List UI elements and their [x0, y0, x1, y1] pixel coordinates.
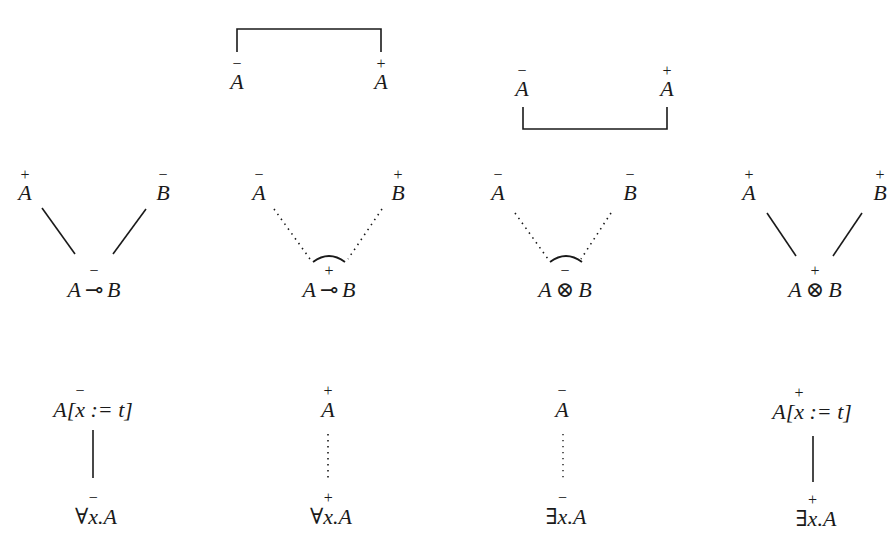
polarity-sign: −	[625, 167, 634, 183]
variable: x	[88, 504, 98, 529]
variable: x	[808, 506, 818, 531]
atom-label: A	[742, 180, 755, 205]
polarity-sign: +	[795, 385, 804, 401]
substitution: := t]	[85, 397, 133, 422]
exists-quantifier: ∃	[796, 506, 808, 531]
tensor-pos-conclusion: A+⊗B	[788, 279, 841, 301]
formula-body: .A	[98, 504, 117, 529]
polarity-sign: −	[89, 490, 98, 506]
polarity-sign: +	[662, 63, 671, 79]
polarity-sign: +	[20, 167, 29, 183]
tensor-operator: ⊗	[552, 277, 578, 302]
polarity-sign: −	[558, 490, 567, 506]
polarity-sign: +	[323, 383, 332, 399]
tensor-neg-conclusion: A−⊗B	[538, 279, 591, 301]
lollipop-pos-conclusion: A+⊸B	[303, 279, 356, 301]
polarity-sign: +	[393, 167, 402, 183]
lollipop-operator: ⊸	[316, 277, 342, 302]
forall-pos-premise: +A	[321, 399, 334, 421]
formula-head: A[	[772, 399, 794, 424]
exists-neg-premise: −A	[555, 399, 568, 421]
tensor-neg-edges	[515, 213, 611, 262]
polarity-sign: +	[744, 167, 753, 183]
formula-left: A	[68, 277, 81, 302]
atom-label: B	[391, 180, 404, 205]
formula-head: A[	[53, 397, 75, 422]
tensor-pos-premise-right: + B	[873, 182, 886, 204]
lollipop-neg-premise-right: − B	[156, 182, 169, 204]
polarity-sign: −	[557, 383, 566, 399]
substitution: := t]	[804, 399, 852, 424]
variable: x	[558, 504, 568, 529]
polarity-sign: −	[254, 167, 263, 183]
lollipop-pos-premise-right: + B	[391, 182, 404, 204]
forall-quantifier: ∀	[75, 504, 88, 529]
axiom-bottom-left-atom: − A	[515, 78, 528, 100]
lollipop-neg-premise-left: + A	[18, 182, 31, 204]
lollipop-neg-conclusion: A−⊸B	[68, 279, 121, 301]
exists-pos-premise: A[+x := t]	[772, 401, 852, 423]
lollipop-pos-edges	[274, 209, 382, 262]
atom-label: A	[18, 180, 31, 205]
formula-left: A	[788, 277, 801, 302]
axiom-bottom-bracket	[523, 107, 667, 129]
forall-neg-conclusion: ∀−x.A	[75, 506, 117, 528]
atom-label: A	[321, 397, 334, 422]
atom-label: A	[230, 69, 243, 94]
lollipop-neg-edges	[42, 208, 146, 254]
formula-left: A	[303, 277, 316, 302]
formula-body: .A	[567, 504, 586, 529]
exists-quantifier: ∃	[546, 504, 558, 529]
polarity-sign: −	[560, 263, 569, 279]
link-edges	[0, 0, 892, 548]
exists-neg-conclusion: ∃−x.A	[546, 506, 587, 528]
forall-neg-premise: A[−x := t]	[53, 399, 133, 421]
atom-label: A	[491, 180, 504, 205]
polarity-sign: −	[493, 167, 502, 183]
axiom-top-bracket	[237, 29, 381, 52]
lollipop-operator: ⊸	[81, 277, 107, 302]
polarity-sign: +	[324, 490, 333, 506]
tensor-operator: ⊗	[802, 277, 828, 302]
axiom-top-right-atom: + A	[374, 71, 387, 93]
atom-label: A	[515, 76, 528, 101]
tensor-pos-premise-left: + A	[742, 182, 755, 204]
polarity-sign: −	[232, 56, 241, 72]
polarity-sign: +	[376, 56, 385, 72]
atom-label: B	[623, 180, 636, 205]
atom-label: A	[660, 76, 673, 101]
polarity-sign: +	[875, 167, 884, 183]
formula-right: B	[828, 277, 841, 302]
polarity-sign: −	[517, 63, 526, 79]
axiom-top-left-atom: − A	[230, 71, 243, 93]
polarity-sign: −	[158, 167, 167, 183]
atom-label: A	[252, 180, 265, 205]
tensor-neg-premise-right: − B	[623, 182, 636, 204]
formula-body: .A	[333, 504, 352, 529]
formula-left: A	[538, 277, 551, 302]
polarity-sign: −	[89, 263, 98, 279]
exists-pos-conclusion: ∃+x.A	[796, 508, 837, 530]
variable: x	[794, 399, 804, 424]
atom-label: B	[156, 180, 169, 205]
axiom-bottom-right-atom: + A	[660, 78, 673, 100]
atom-label: A	[374, 69, 387, 94]
lollipop-pos-premise-left: − A	[252, 182, 265, 204]
forall-pos-conclusion: ∀+x.A	[310, 506, 352, 528]
atom-label: A	[555, 397, 568, 422]
polarity-sign: +	[324, 263, 333, 279]
polarity-sign: +	[810, 263, 819, 279]
forall-quantifier: ∀	[310, 504, 323, 529]
variable: x	[323, 504, 333, 529]
formula-body: .A	[817, 506, 836, 531]
polarity-sign: −	[76, 383, 85, 399]
atom-label: B	[873, 180, 886, 205]
polarity-sign: +	[808, 492, 817, 508]
tensor-neg-premise-left: − A	[491, 182, 504, 204]
formula-right: B	[578, 277, 591, 302]
variable: x	[75, 397, 85, 422]
tensor-pos-edges	[767, 213, 862, 256]
formula-right: B	[342, 277, 355, 302]
formula-right: B	[107, 277, 120, 302]
